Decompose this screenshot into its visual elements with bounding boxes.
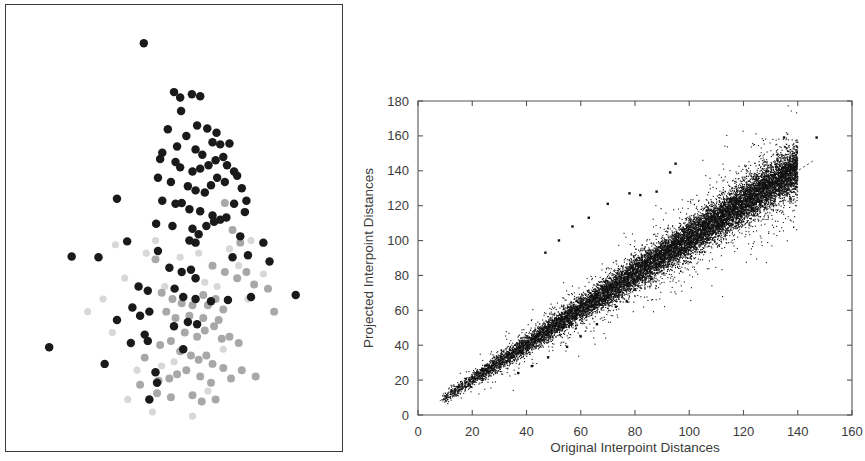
data-point <box>749 193 750 194</box>
data-point <box>685 245 686 246</box>
data-point <box>737 211 738 212</box>
data-point <box>585 298 586 299</box>
data-point <box>530 347 531 348</box>
data-point <box>714 242 715 243</box>
data-point <box>541 339 542 340</box>
data-point <box>592 291 593 292</box>
data-point <box>732 221 733 222</box>
scatter-point <box>167 337 175 345</box>
data-point <box>780 152 781 153</box>
data-point <box>785 166 786 167</box>
data-point <box>593 311 594 312</box>
data-point <box>777 170 778 171</box>
data-point <box>751 146 752 147</box>
data-point <box>784 146 785 147</box>
data-point <box>730 207 731 208</box>
data-point <box>726 200 727 201</box>
data-point <box>569 304 570 305</box>
data-point <box>756 188 757 189</box>
data-point <box>579 319 580 320</box>
data-point <box>657 261 658 262</box>
data-point <box>664 248 665 249</box>
data-point <box>582 303 583 304</box>
data-point <box>655 256 656 257</box>
data-point <box>660 244 661 245</box>
data-point <box>782 155 783 156</box>
data-point <box>708 228 709 229</box>
data-point <box>733 245 734 246</box>
data-point <box>451 385 452 386</box>
data-point <box>691 215 692 216</box>
data-point <box>715 212 716 213</box>
data-point <box>766 179 767 180</box>
data-point <box>796 205 797 206</box>
data-point <box>645 250 646 251</box>
data-point <box>783 203 784 204</box>
data-point <box>589 309 590 310</box>
data-point <box>516 354 517 355</box>
data-point <box>751 221 752 222</box>
data-point <box>610 286 611 287</box>
data-point <box>796 145 797 146</box>
data-point <box>568 307 569 308</box>
data-point <box>646 278 647 279</box>
scatter-point <box>235 339 243 347</box>
data-point <box>532 333 533 334</box>
data-point <box>638 260 639 261</box>
data-point <box>611 296 612 297</box>
data-point <box>644 264 645 265</box>
data-point <box>739 219 740 220</box>
data-point <box>656 243 657 244</box>
data-point <box>680 245 681 246</box>
data-point <box>792 151 793 152</box>
data-point <box>775 186 776 187</box>
data-point <box>552 320 553 321</box>
data-point <box>618 298 619 299</box>
data-point <box>751 205 752 206</box>
data-point <box>743 195 744 196</box>
data-point <box>605 278 606 279</box>
data-point <box>680 235 681 236</box>
data-point <box>662 235 663 236</box>
data-point <box>528 341 529 342</box>
data-point <box>721 198 722 199</box>
data-point <box>641 273 642 274</box>
data-point <box>675 231 676 232</box>
data-point <box>522 344 523 345</box>
data-point <box>772 195 773 196</box>
data-point <box>565 311 566 312</box>
data-point <box>773 206 774 207</box>
data-point <box>736 195 737 196</box>
data-point <box>729 226 730 227</box>
data-point <box>750 187 751 188</box>
data-point <box>688 234 689 235</box>
data-point <box>575 324 576 325</box>
data-point <box>761 207 762 208</box>
data-point <box>685 254 686 255</box>
x-tick-label: 160 <box>841 424 863 439</box>
data-point <box>746 176 747 177</box>
data-point <box>794 159 795 160</box>
data-point <box>645 274 646 275</box>
data-point <box>630 292 631 293</box>
scatter-point <box>241 208 249 216</box>
data-point <box>705 222 706 223</box>
data-point <box>553 344 554 345</box>
data-point <box>669 246 670 247</box>
data-point <box>528 340 529 341</box>
scatter-point <box>177 107 185 115</box>
data-point <box>669 257 670 258</box>
data-point <box>731 225 732 226</box>
data-point <box>606 298 607 299</box>
data-point <box>733 200 734 201</box>
data-point <box>612 281 613 282</box>
data-point <box>499 365 500 366</box>
data-point <box>748 184 749 185</box>
data-point <box>690 231 691 232</box>
data-point <box>698 237 699 238</box>
data-point <box>569 323 570 324</box>
scatter-point <box>145 395 153 403</box>
data-point <box>635 255 636 256</box>
data-point <box>450 391 451 392</box>
data-point <box>630 264 631 265</box>
